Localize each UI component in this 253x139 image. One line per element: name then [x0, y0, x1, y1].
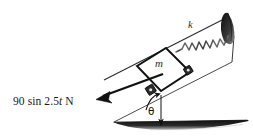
mass-block	[137, 48, 190, 91]
applied-force-suffix: N	[62, 95, 73, 107]
mass-label: m	[155, 57, 163, 69]
coil-spring	[174, 36, 228, 55]
physics-figure: 90 sin 2.5t N m k θ	[0, 0, 253, 139]
applied-force-prefix: 90 sin 2.5	[13, 95, 59, 107]
figure-canvas	[0, 0, 253, 139]
ground-surface	[114, 120, 249, 130]
upper-wall-support	[221, 13, 235, 44]
applied-force-label: 90 sin 2.5t N	[13, 95, 74, 107]
angle-label: θ	[148, 105, 154, 117]
spring-constant-label: k	[188, 19, 193, 30]
